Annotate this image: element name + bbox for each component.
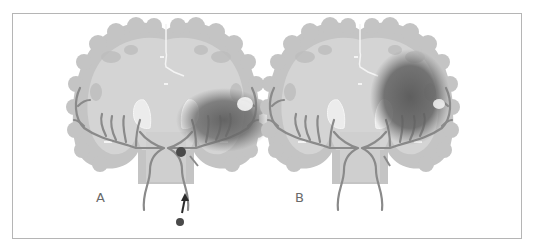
lesion-a-highlight: [237, 97, 253, 111]
lesion-b: [370, 49, 450, 145]
lesion-b-highlight: [433, 99, 445, 109]
lesion-a: [176, 88, 272, 152]
embolus-in-artery: [176, 147, 186, 157]
embolus-dot: [176, 218, 184, 226]
panel-label-b: B: [295, 190, 304, 205]
panel-label-a: A: [96, 190, 105, 205]
brain-panel-a: [0, 0, 534, 251]
